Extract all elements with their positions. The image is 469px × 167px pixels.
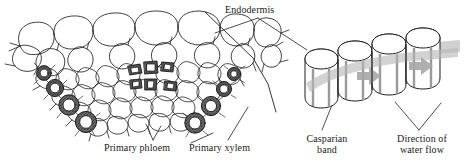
phloem-cell bbox=[128, 64, 142, 75]
figure-root: Endodermis Primary phloem Primary xylem … bbox=[0, 0, 469, 167]
leader-water-flow-right bbox=[419, 103, 441, 130]
leader-endodermis-left bbox=[215, 18, 258, 33]
phloem-cell bbox=[144, 61, 158, 74]
xylem-vessel bbox=[183, 113, 208, 137]
xylem-vessel bbox=[224, 66, 245, 83]
xylem-vessel bbox=[213, 81, 236, 98]
label-casparian-band: Casparian band bbox=[298, 133, 356, 155]
leader-endodermis-right bbox=[258, 18, 307, 50]
label-direction-of-water-flow: Direction of water flow bbox=[380, 133, 464, 155]
xylem-vessel bbox=[74, 111, 100, 136]
phloem-cell bbox=[161, 62, 174, 72]
xylem-vessel bbox=[199, 96, 225, 117]
phloem-cell bbox=[130, 79, 142, 89]
label-endodermis: Endodermis bbox=[225, 4, 274, 15]
endodermis-boundary-line bbox=[205, 12, 276, 112]
primary-phloem-cells bbox=[128, 61, 177, 91]
endodermis-block-diagram-panel bbox=[305, 28, 460, 108]
label-primary-phloem: Primary phloem bbox=[104, 142, 170, 153]
leader-primary-xylem bbox=[228, 107, 248, 140]
label-primary-xylem: Primary xylem bbox=[189, 142, 250, 153]
leader-water-flow-left bbox=[395, 102, 419, 130]
phloem-cell bbox=[145, 79, 157, 90]
phloem-cell bbox=[164, 81, 177, 91]
root-cross-section-panel bbox=[5, 11, 289, 141]
